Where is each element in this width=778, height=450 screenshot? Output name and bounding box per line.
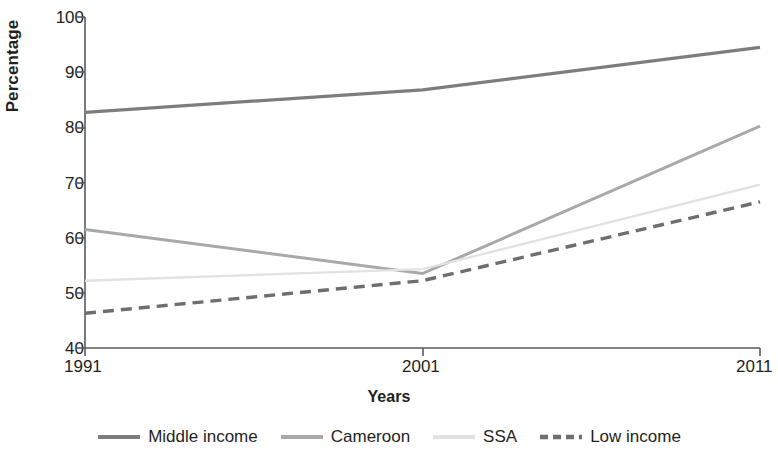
line-chart-figure: Percentage 100 90 80 70 60 50 40 bbox=[0, 0, 778, 450]
y-axis-ticks bbox=[77, 17, 85, 348]
series-line-cameroon bbox=[85, 126, 760, 273]
legend-item-middle-income[interactable]: Middle income bbox=[97, 427, 258, 447]
legend-item-ssa[interactable]: SSA bbox=[432, 427, 517, 447]
legend-swatch-ssa bbox=[432, 431, 476, 443]
series-line-low-income bbox=[85, 202, 760, 313]
legend-label: Cameroon bbox=[331, 427, 410, 447]
legend-swatch-cameroon bbox=[280, 431, 324, 443]
legend-item-cameroon[interactable]: Cameroon bbox=[280, 427, 410, 447]
legend-swatch-low-income bbox=[539, 431, 583, 443]
x-tick-label: 2001 bbox=[402, 357, 440, 377]
plot-area bbox=[0, 0, 778, 450]
x-tick-label: 1991 bbox=[64, 357, 102, 377]
legend-label: Low income bbox=[590, 427, 681, 447]
x-axis-title: Years bbox=[0, 388, 778, 406]
legend-swatch-middle-income bbox=[97, 431, 141, 443]
data-series-layer bbox=[85, 47, 760, 313]
series-line-ssa bbox=[85, 185, 760, 281]
chart-legend: Middle income Cameroon SSA Low income bbox=[0, 424, 778, 450]
legend-label: SSA bbox=[483, 427, 517, 447]
legend-label: Middle income bbox=[148, 427, 258, 447]
series-line-middle-income bbox=[85, 47, 760, 112]
x-axis-ticks bbox=[85, 348, 760, 356]
legend-item-low-income[interactable]: Low income bbox=[539, 427, 681, 447]
x-tick-label: 2011 bbox=[736, 357, 773, 377]
